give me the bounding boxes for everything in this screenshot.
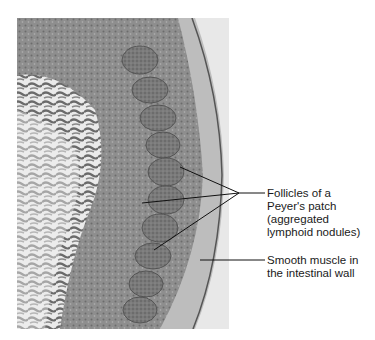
- label-follicles: Follicles of a Peyer's patch (aggregated…: [267, 187, 360, 239]
- label-smooth-muscle: Smooth muscle in the intestinal wall: [267, 254, 358, 280]
- photo-region: [17, 18, 229, 329]
- intestine-micrograph: [0, 0, 375, 340]
